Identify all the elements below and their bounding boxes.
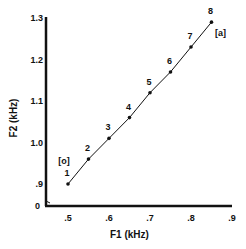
data-point-marker xyxy=(87,157,91,161)
data-point-label: 5 xyxy=(146,77,151,87)
y-tick-label: 1.0 xyxy=(30,138,43,148)
data-point-marker xyxy=(189,45,193,49)
data-point-marker xyxy=(169,70,173,74)
data-point-label: 4 xyxy=(126,102,131,112)
x-tick-label: .8 xyxy=(187,213,195,223)
vowel-annotation: [o] xyxy=(58,156,70,166)
y-origin-label: 0 xyxy=(35,201,40,211)
y-tick-label: 1.1 xyxy=(30,96,43,106)
y-tick-label: 1.2 xyxy=(30,55,43,65)
x-tick-label: .9 xyxy=(228,213,236,223)
x-tick-label: .7 xyxy=(146,213,154,223)
data-point-marker xyxy=(148,91,152,95)
y-tick-label: .9 xyxy=(35,179,43,189)
data-point-marker xyxy=(66,182,70,186)
y-tick-labels: .91.01.11.21.3 xyxy=(30,13,43,189)
x-tick-label: .5 xyxy=(64,213,72,223)
data-point-label: 2 xyxy=(85,143,90,153)
x-tick-label: .6 xyxy=(105,213,113,223)
data-point-label: 6 xyxy=(167,56,172,66)
y-axis-label: F2 (kHz) xyxy=(8,99,19,138)
vowel-annotation: [a] xyxy=(215,28,226,38)
y-tick-label: 1.3 xyxy=(30,13,43,23)
data-point-marker xyxy=(107,137,111,141)
data-point-label: 1 xyxy=(64,168,69,178)
data-point-label: 3 xyxy=(105,122,110,132)
data-point-label: 8 xyxy=(208,6,213,16)
formant-chart: .91.01.11.21.3 .5.6.7.8.9 0 12345678 [o]… xyxy=(0,0,246,249)
annotations: [o][a] xyxy=(58,28,226,166)
data-point-marker xyxy=(128,116,132,120)
data-point-label: 7 xyxy=(187,31,192,41)
data-points: 12345678 xyxy=(64,6,213,186)
data-point-marker xyxy=(210,20,214,24)
x-tick-labels: .5.6.7.8.9 xyxy=(64,213,236,223)
x-axis-label: F1 (kHz) xyxy=(110,229,149,240)
